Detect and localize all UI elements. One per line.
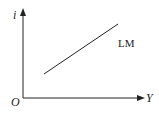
origin-label: O bbox=[11, 95, 20, 109]
y-axis-label: i bbox=[13, 8, 16, 22]
x-axis-arrow-icon bbox=[137, 95, 145, 101]
x-axis-label: Y bbox=[146, 91, 154, 105]
lm-curve bbox=[44, 24, 118, 74]
y-axis-arrow-icon bbox=[20, 8, 26, 16]
lm-curve-label: LM bbox=[118, 37, 135, 49]
lm-diagram: i O Y LM bbox=[0, 0, 159, 118]
